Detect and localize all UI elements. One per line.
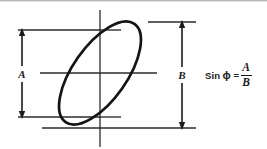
fraction-numerator: A — [241, 62, 251, 74]
lissajous-diagram: A B Sin ϕ = A B — [0, 0, 267, 149]
phi-symbol: ϕ — [223, 69, 231, 81]
dimension-arrow-a: A — [15, 28, 30, 119]
equals-sign: = — [233, 70, 239, 81]
fraction-denominator: B — [241, 77, 251, 89]
dimension-arrow-b: B — [175, 20, 190, 130]
formula-sin-text: Sin — [205, 70, 220, 81]
phase-angle-formula: Sin ϕ = A B — [205, 62, 252, 88]
formula-fraction: A B — [241, 62, 252, 88]
dimension-label-a: A — [17, 68, 25, 80]
dimension-label-b: B — [177, 69, 185, 81]
